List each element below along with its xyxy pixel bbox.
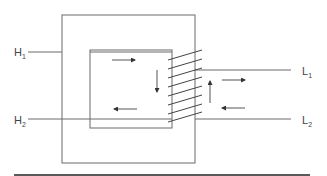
label-l1: L1: [302, 65, 312, 79]
inner-window: [90, 50, 172, 128]
label-h1: H1: [14, 46, 26, 60]
label-l2: L2: [302, 114, 312, 128]
outer-core: [62, 15, 195, 163]
transformer-diagram: H1 H2 L1 L2: [0, 0, 327, 176]
coil-winding: [168, 50, 202, 122]
label-h2: H2: [14, 114, 26, 128]
